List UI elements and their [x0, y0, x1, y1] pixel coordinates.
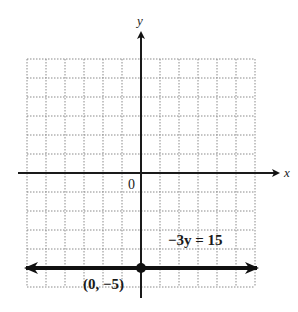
- equation-label: −3y = 15: [168, 232, 223, 248]
- y-axis-label: y: [135, 13, 143, 28]
- coordinate-plane: x y 0 −3y = 15 (0, −5): [0, 0, 298, 312]
- origin-label: 0: [128, 177, 135, 192]
- x-axis-label: x: [283, 165, 290, 180]
- point-0-minus-5: [136, 263, 146, 273]
- point-label: (0, −5): [83, 276, 124, 293]
